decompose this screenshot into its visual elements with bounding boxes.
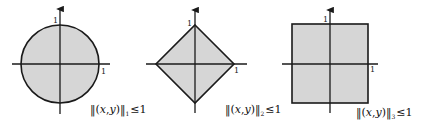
figure-circle: 1 1 ‖(x,y)‖1≤1 [12, 9, 147, 117]
tick-y-1: 1 [53, 16, 58, 25]
norm-label-1: ‖(x,y)‖1≤1 [90, 103, 147, 117]
figure-square: 1 1 ‖(x,y)‖3≤1 [282, 10, 413, 120]
norm-label-3: ‖(x,y)‖3≤1 [356, 106, 413, 120]
tick-x-1: 1 [370, 65, 375, 74]
tick-x-1: 1 [101, 67, 106, 76]
tick-y-1: 1 [323, 15, 328, 24]
figure-diamond: 1 1 ‖(x,y)‖2≤1 [146, 10, 282, 117]
norm-label-2: ‖(x,y)‖2≤1 [225, 103, 282, 117]
tick-y-1: 1 [187, 19, 192, 28]
norm-balls-diagram: 1 1 ‖(x,y)‖1≤1 1 1 ‖(x,y)‖2≤1 1 1 ‖(x,y)… [0, 0, 424, 130]
tick-x-1: 1 [234, 66, 239, 75]
